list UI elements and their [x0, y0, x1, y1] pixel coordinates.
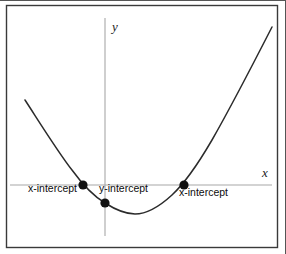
x-intercept-left-dot: [78, 180, 87, 189]
parabola-diagram-svg: y x x-intercept y-intercept x-intercept: [0, 0, 286, 254]
y-axis-label: y: [110, 19, 118, 34]
y-intercept-dot: [100, 198, 109, 207]
figure-frame: [7, 6, 278, 248]
x-axis-label: x: [261, 165, 268, 180]
x-intercept-left-label: x-intercept: [28, 182, 77, 194]
y-intercept-label: y-intercept: [99, 182, 148, 194]
x-intercept-right-label: x-intercept: [179, 186, 228, 198]
parabola-intercepts-figure: y x x-intercept y-intercept x-intercept: [0, 0, 286, 254]
